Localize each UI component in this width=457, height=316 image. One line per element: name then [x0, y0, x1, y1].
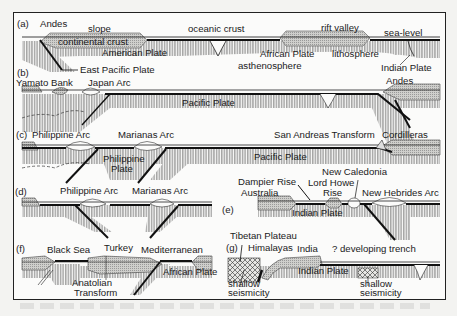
- label-american-plate: American Plate: [102, 47, 167, 58]
- a-rift-crust: [280, 31, 370, 46]
- plate-tectonics-diagram: (a) Andes slope oceanic crust rift valle…: [0, 0, 457, 316]
- label-pacific-plate-b: Pacific Plate: [182, 97, 235, 108]
- f-turkey-crust: [88, 256, 162, 274]
- label-rift-valley: rift valley: [321, 22, 359, 33]
- panel-c-tag: (c): [16, 129, 27, 140]
- label-mediterranean: Mediterranean: [141, 244, 203, 255]
- panel-f-tag: (f): [16, 243, 25, 254]
- label-cordilleras: Cordilleras: [382, 129, 428, 140]
- panel-b: [22, 84, 440, 150]
- label-pacific-plate-c: Pacific Plate: [254, 151, 307, 162]
- label-oceanic-crust: oceanic crust: [188, 23, 245, 34]
- label-new-caledonia: New Caledonia: [322, 166, 388, 177]
- label-indian-plate-g: Indian Plate: [298, 265, 349, 276]
- label-japan-arc: Japan Arc: [88, 77, 131, 88]
- b-japan-arc: [82, 88, 100, 95]
- label-shallow-2b: seismicity: [360, 287, 402, 298]
- panel-g-tag: (g): [226, 242, 238, 253]
- label-slope: slope: [88, 23, 111, 34]
- label-turkey: Turkey: [104, 242, 133, 253]
- label-sea-level: sea-level: [384, 27, 422, 38]
- label-yamato-bank: Yamato Bank: [16, 77, 73, 88]
- label-philippine-arc-d: Philippine Arc: [60, 185, 118, 196]
- label-indian-plate-e: Indian Plate: [292, 207, 343, 218]
- label-india: India: [297, 243, 318, 254]
- d-mar-arc: [150, 199, 174, 207]
- caption-bleed: [20, 303, 430, 309]
- label-east-pacific-plate: East Pacific Plate: [80, 64, 155, 75]
- e-newcal-pointer: [355, 180, 358, 198]
- label-indian-plate: Indian Plate: [381, 62, 432, 73]
- label-new-hebrides-arc: New Hebrides Arc: [362, 187, 439, 198]
- label-lord-howe-2: Rise: [323, 187, 342, 198]
- label-philippine-arc-c: Philippine Arc: [32, 129, 90, 140]
- panel-a-tag: (a): [17, 18, 29, 29]
- label-san-andreas: San Andreas Transform: [274, 129, 375, 140]
- label-andes-b: Andes: [386, 75, 413, 86]
- label-marianas-arc-d: Marianas Arc: [132, 185, 188, 196]
- e-new-caledonia: [348, 198, 360, 208]
- label-marianas-arc-c: Marianas Arc: [118, 129, 174, 140]
- label-lithosphere: lithosphere: [332, 48, 379, 59]
- panel-d: [22, 198, 212, 238]
- label-african-plate-f: African Plate: [163, 266, 217, 277]
- label-continental-crust: continental crust: [58, 36, 128, 47]
- label-african-plate: African Plate: [260, 48, 314, 59]
- c-cordilleras-crust: [382, 140, 440, 155]
- label-andes: Andes: [40, 18, 67, 29]
- b-yamato-bank: [52, 87, 68, 94]
- label-tibetan-plateau: Tibetan Plateau: [230, 230, 297, 241]
- label-black-sea: Black Sea: [47, 244, 91, 255]
- label-australia: Australia: [241, 187, 279, 198]
- label-philippine-plate-2: Plate: [111, 163, 133, 174]
- label-anatolian-2: Transform: [74, 287, 117, 298]
- label-asthenosphere: asthenosphere: [238, 60, 301, 71]
- label-developing-trench: ? developing trench: [332, 243, 416, 254]
- label-himalayas: Himalayas: [248, 242, 293, 253]
- label-shallow-1b: seismicity: [228, 287, 270, 298]
- panel-e-tag: (e): [222, 204, 234, 215]
- label-dampier-rise: Dampier Rise: [238, 176, 296, 187]
- panel-d-tag: (d): [15, 186, 27, 197]
- e-australia-crust: [258, 196, 296, 210]
